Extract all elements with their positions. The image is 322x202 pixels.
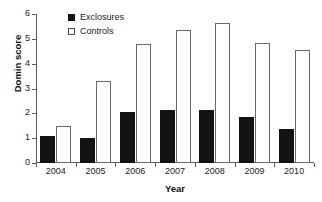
legend-swatch-open-icon <box>68 28 75 35</box>
y-tick-label: 5 <box>16 34 30 43</box>
x-tick-label: 2010 <box>274 167 314 176</box>
x-tick-label: 2009 <box>235 167 275 176</box>
bar-chart: Domin score 6 5 4 3 2 1 0 20042005200620… <box>0 0 322 202</box>
bar-exclosures-2006 <box>120 112 135 163</box>
chart-legend: Exclosures Controls <box>68 11 178 39</box>
y-tick-label: 3 <box>16 84 30 93</box>
bar-controls-2009 <box>255 43 270 163</box>
x-tick-label: 2008 <box>195 167 235 176</box>
bar-exclosures-2009 <box>239 117 254 163</box>
y-tick-label: 4 <box>16 59 30 68</box>
bar-exclosures-2004 <box>40 136 55 163</box>
y-tick-mark <box>32 138 36 139</box>
x-axis-title: Year <box>36 183 314 194</box>
y-axis-tick-labels: 6 5 4 3 2 1 0 <box>12 0 30 202</box>
bar-exclosures-2010 <box>279 129 294 163</box>
legend-swatch-filled-icon <box>68 14 75 21</box>
legend-item-exclosures: Exclosures <box>68 11 178 24</box>
bar-controls-2004 <box>56 126 71 163</box>
bar-exclosures-2008 <box>199 110 214 163</box>
y-tick-mark <box>32 64 36 65</box>
bar-controls-2006 <box>136 44 151 163</box>
x-tick-mark <box>314 163 315 167</box>
y-tick-label: 1 <box>16 133 30 142</box>
y-tick-label: 2 <box>16 108 30 117</box>
x-tick-label: 2004 <box>36 167 76 176</box>
y-tick-label: 0 <box>16 158 30 167</box>
x-tick-label: 2007 <box>155 167 195 176</box>
legend-label: Exclosures <box>80 13 124 22</box>
bar-controls-2005 <box>96 81 111 163</box>
x-tick-label: 2006 <box>115 167 155 176</box>
y-tick-mark <box>32 113 36 114</box>
y-tick-mark <box>32 39 36 40</box>
y-tick-mark <box>32 89 36 90</box>
bar-controls-2007 <box>176 30 191 163</box>
bar-controls-2010 <box>295 50 310 163</box>
y-tick-label: 6 <box>16 9 30 18</box>
y-tick-mark <box>32 14 36 15</box>
legend-item-controls: Controls <box>68 25 178 38</box>
bar-controls-2008 <box>215 23 230 163</box>
bar-exclosures-2005 <box>80 138 95 163</box>
legend-label: Controls <box>80 27 114 36</box>
x-tick-label: 2005 <box>76 167 116 176</box>
x-axis-tick-labels: 2004200520062007200820092010 <box>36 167 314 181</box>
bar-exclosures-2007 <box>160 110 175 163</box>
